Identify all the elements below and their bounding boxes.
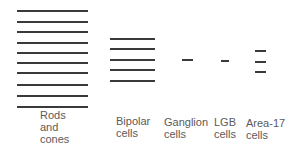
bipolar-layer-line bbox=[110, 59, 155, 61]
rods-layer-line bbox=[17, 10, 88, 12]
label-line: and bbox=[40, 121, 69, 133]
label-rods-and-cones: Rods and cones bbox=[40, 109, 69, 145]
rods-layer-line bbox=[17, 62, 88, 64]
label-area-17-cells: Area-17 cells bbox=[246, 117, 285, 141]
label-line: Rods bbox=[40, 109, 69, 121]
rods-layer-line bbox=[17, 31, 88, 33]
label-line: cells bbox=[214, 128, 236, 140]
label-line: Bipolar bbox=[116, 115, 150, 127]
label-line: cells bbox=[116, 127, 150, 139]
rods-layer-line bbox=[17, 21, 88, 23]
area17-layer-line bbox=[255, 61, 266, 63]
label-line: LGB bbox=[214, 116, 236, 128]
label-lgb-cells: LGB cells bbox=[214, 116, 236, 140]
bipolar-layer-line bbox=[110, 38, 155, 40]
rods-layer-line bbox=[17, 42, 88, 44]
label-line: Area-17 bbox=[246, 117, 285, 129]
bipolar-layer-line bbox=[110, 69, 155, 71]
area17-layer-line bbox=[255, 71, 266, 73]
rods-layer-line bbox=[17, 52, 88, 54]
label-line: cones bbox=[40, 133, 69, 145]
label-bipolar-cells: Bipolar cells bbox=[116, 115, 150, 139]
label-line: cells bbox=[246, 129, 285, 141]
rods-layer-line bbox=[17, 95, 88, 97]
bipolar-layer-line bbox=[110, 80, 155, 82]
rods-layer-line bbox=[17, 72, 88, 74]
rods-layer-line bbox=[17, 106, 88, 108]
bipolar-layer-line bbox=[110, 48, 155, 50]
label-line: Ganglion bbox=[164, 116, 208, 128]
label-line: cells bbox=[164, 128, 208, 140]
label-ganglion-cells: Ganglion cells bbox=[164, 116, 208, 140]
rods-layer-line bbox=[17, 84, 88, 86]
area17-layer-line bbox=[255, 50, 266, 52]
lgb-layer-line bbox=[221, 60, 229, 62]
ganglion-layer-line bbox=[182, 59, 193, 61]
